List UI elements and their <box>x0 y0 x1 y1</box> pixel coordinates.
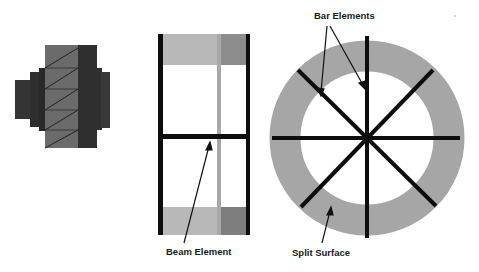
solid-mesh-part <box>15 45 110 148</box>
beam-element <box>158 134 250 139</box>
stray-dot <box>454 15 456 17</box>
ring-part <box>272 36 460 238</box>
beam-element-label: Beam Element <box>166 246 232 257</box>
bar-elements-label: Bar Elements <box>314 10 375 21</box>
frame-part <box>158 34 250 235</box>
diagram-canvas: Beam Element Bar Elements Split Surface <box>0 0 479 272</box>
split-surface-label: Split Surface <box>292 247 350 258</box>
